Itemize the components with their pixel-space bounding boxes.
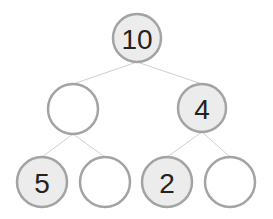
edge-left-to-left-right (73, 134, 105, 157)
tree-node-right: 4 (178, 84, 226, 132)
tree-node-left-right (80, 157, 130, 207)
node-label: 4 (194, 94, 210, 125)
node-label: 5 (34, 168, 50, 199)
node-circle (48, 84, 98, 134)
tree-node-right-right (205, 157, 255, 207)
tree-diagram: 10452 (0, 0, 273, 219)
tree-node-left-left: 5 (17, 157, 67, 207)
edge-root-to-right (137, 62, 202, 84)
nodes-group: 10452 (17, 14, 255, 207)
edge-root-to-left (73, 62, 137, 84)
node-label: 10 (121, 24, 152, 55)
edge-left-to-left-left (42, 134, 73, 157)
edge-right-to-right-left (167, 132, 202, 157)
node-circle (80, 157, 130, 207)
tree-node-left (48, 84, 98, 134)
tree-node-root: 10 (113, 14, 161, 62)
tree-node-right-left: 2 (142, 157, 192, 207)
tree-svg: 10452 (0, 0, 273, 219)
node-circle (205, 157, 255, 207)
edge-right-to-right-right (202, 132, 230, 157)
node-label: 2 (159, 168, 175, 199)
